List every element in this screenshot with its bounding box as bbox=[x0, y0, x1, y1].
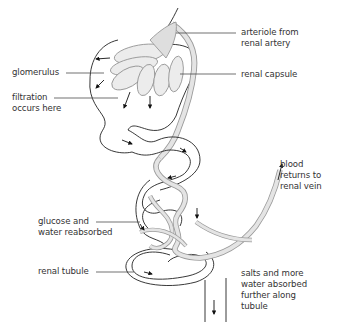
peritubular-capillaries bbox=[140, 158, 280, 258]
label-arteriole: arteriole from renal artery bbox=[241, 27, 299, 49]
label-filtration: filtration occurs here bbox=[12, 92, 61, 114]
label-glucose: glucose and water reabsorbed bbox=[38, 216, 112, 238]
label-blood-returns: blood returns to renal vein bbox=[280, 159, 322, 192]
nephron-diagram: glomerulus filtration occurs here arteri… bbox=[0, 0, 338, 331]
label-glomerulus: glomerulus bbox=[12, 67, 59, 78]
label-salts: salts and more water absorbed further al… bbox=[241, 268, 307, 312]
label-renal-capsule: renal capsule bbox=[241, 69, 297, 80]
label-renal-tubule: renal tubule bbox=[38, 266, 89, 277]
glomerulus-tuft bbox=[108, 22, 186, 98]
